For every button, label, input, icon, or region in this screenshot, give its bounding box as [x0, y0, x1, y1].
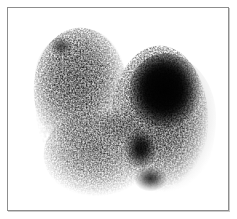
- scan-canvas: [8, 8, 228, 210]
- scintigraphy-image-root: [0, 0, 237, 219]
- image-frame: [7, 7, 229, 211]
- coarse-speckle-overlay: [8, 8, 228, 210]
